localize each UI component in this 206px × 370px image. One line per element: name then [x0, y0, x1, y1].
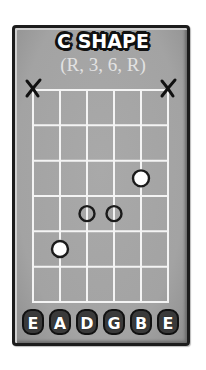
string-label: E [157, 309, 179, 335]
string-label: E [22, 309, 44, 335]
finger-dot-filled [133, 170, 149, 186]
string-label: B [130, 309, 152, 335]
finger-dot-filled [52, 241, 68, 257]
string-label: D [76, 309, 98, 335]
string-labels: EADGBE [0, 309, 206, 337]
string-label: G [103, 309, 125, 335]
string-label: A [49, 309, 71, 335]
